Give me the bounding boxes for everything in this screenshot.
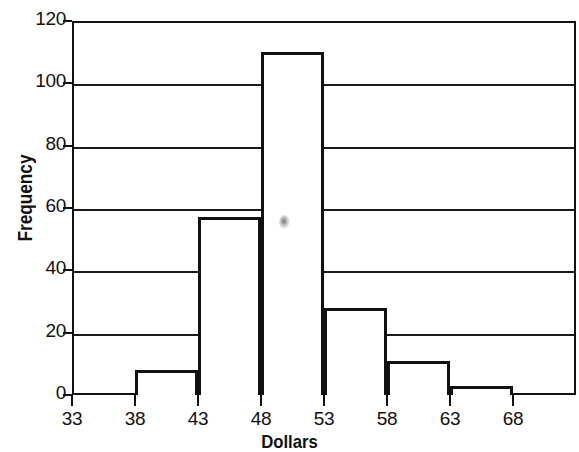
gridline bbox=[74, 84, 574, 86]
y-tick-label: 120 bbox=[35, 8, 66, 30]
y-tick-label: 60 bbox=[45, 195, 66, 217]
x-tick-mark bbox=[197, 395, 199, 406]
x-tick-mark bbox=[260, 395, 262, 406]
histogram-bar bbox=[324, 308, 387, 395]
x-tick-mark bbox=[323, 395, 325, 406]
x-tick-mark bbox=[134, 395, 136, 406]
gridline bbox=[74, 271, 574, 273]
histogram-figure: 020406080100120 Dollars 3338434853586368… bbox=[0, 0, 579, 452]
y-axis-title: Frequency bbox=[14, 95, 37, 301]
x-tick-label: 68 bbox=[483, 408, 543, 430]
x-tick-mark bbox=[386, 395, 388, 406]
y-tick-label: 80 bbox=[45, 133, 66, 155]
x-tick-label: 53 bbox=[294, 408, 354, 430]
gridline bbox=[74, 147, 574, 149]
x-tick-label: 43 bbox=[168, 408, 228, 430]
histogram-bar bbox=[387, 361, 450, 395]
histogram-bar bbox=[198, 217, 261, 395]
histogram-bar bbox=[261, 52, 324, 395]
y-tick-label: 40 bbox=[45, 257, 66, 279]
scan-speck-artifact bbox=[279, 215, 290, 229]
x-axis: Dollars 3338434853586368 bbox=[0, 395, 579, 452]
x-axis-title: Dollars bbox=[35, 431, 545, 452]
y-axis-title-wrap: Frequency bbox=[14, 78, 40, 318]
x-tick-label: 58 bbox=[357, 408, 417, 430]
histogram-bar bbox=[135, 370, 198, 395]
gridline bbox=[74, 209, 574, 211]
x-tick-label: 63 bbox=[420, 408, 480, 430]
x-tick-mark bbox=[449, 395, 451, 406]
x-tick-mark bbox=[71, 395, 73, 406]
x-tick-mark bbox=[512, 395, 514, 406]
x-tick-label: 38 bbox=[105, 408, 165, 430]
y-tick-label: 20 bbox=[45, 320, 66, 342]
histogram-bar bbox=[450, 386, 513, 395]
x-tick-label: 48 bbox=[231, 408, 291, 430]
x-tick-label: 33 bbox=[42, 408, 102, 430]
